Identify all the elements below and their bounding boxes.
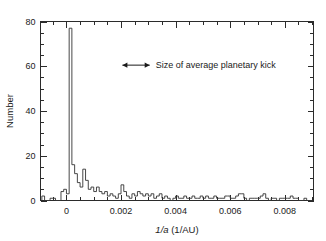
y-tick-label: 40 <box>25 106 35 116</box>
x-axis-major-ticks <box>67 22 286 201</box>
chart-canvas: 00.0020.0040.0060.008 020406080 Size of … <box>0 0 326 241</box>
planetary-kick-label: Size of average planetary kick <box>156 60 277 70</box>
y-axis-tick-labels: 020406080 <box>25 17 35 206</box>
y-axis-major-ticks <box>41 23 314 202</box>
x-tick-label: 0.008 <box>274 206 297 216</box>
y-tick-label: 60 <box>25 61 35 71</box>
histogram-figure: 00.0020.0040.0060.008 020406080 Size of … <box>0 0 326 241</box>
histogram-series <box>42 28 312 200</box>
arrow-head-icon <box>145 63 150 68</box>
plot-frame <box>41 22 314 201</box>
y-tick-label: 80 <box>25 17 35 27</box>
x-tick-label: 0.002 <box>110 206 133 216</box>
x-axis-title-rest-part: (1/AU) <box>169 224 199 235</box>
x-tick-label: 0.004 <box>164 206 187 216</box>
x-axis-tick-labels: 00.0020.0040.0060.008 <box>64 206 296 216</box>
x-axis-title-italic-part: 1/a <box>155 224 168 235</box>
planetary-kick-arrow-icon <box>122 63 149 68</box>
y-axis-title: Number <box>4 94 15 128</box>
x-axis-title: 1/a (1/AU) <box>155 224 198 235</box>
x-tick-label: 0 <box>64 206 69 216</box>
y-tick-label: 0 <box>30 196 35 206</box>
x-axis-minor-ticks <box>54 22 313 201</box>
x-tick-label: 0.006 <box>219 206 242 216</box>
y-axis-minor-ticks <box>41 34 314 190</box>
y-tick-label: 20 <box>25 151 35 161</box>
arrow-head-icon <box>122 63 127 68</box>
